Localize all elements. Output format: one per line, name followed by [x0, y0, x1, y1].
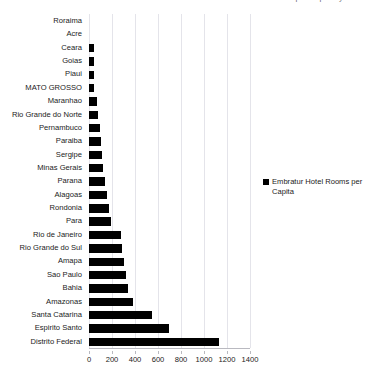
bar — [89, 57, 94, 65]
bar-row — [89, 27, 250, 40]
x-axis-tick-mark — [158, 351, 159, 354]
legend: Embratur Hotel Rooms per Capita — [263, 177, 375, 197]
bar — [89, 284, 128, 292]
bar-row — [89, 121, 250, 134]
bar-row — [89, 188, 250, 201]
bar — [89, 84, 94, 92]
bar-row — [89, 241, 250, 254]
legend-label: Embratur Hotel Rooms per Capita — [272, 177, 370, 197]
bar-row — [89, 308, 250, 321]
y-axis-label: Parana — [58, 174, 83, 187]
bar — [89, 164, 103, 172]
bar-row — [89, 228, 250, 241]
bar — [89, 111, 98, 119]
y-axis-label: Alagoas — [55, 188, 82, 201]
x-axis-tick-mark — [204, 351, 205, 354]
y-axis-label: Distrito Federal — [31, 335, 82, 348]
bar-row — [89, 108, 250, 121]
bar-row — [89, 295, 250, 308]
bar — [89, 177, 105, 185]
bar-row — [89, 214, 250, 227]
bar-row — [89, 41, 250, 54]
bar — [89, 311, 152, 319]
bar-row — [89, 281, 250, 294]
bar — [89, 271, 126, 279]
x-axis-tick-mark — [89, 351, 90, 354]
bar — [89, 204, 109, 212]
y-axis-label: Rio Grande do Sul — [20, 241, 82, 254]
x-axis-tick-mark — [135, 351, 136, 354]
y-axis-label: Amazonas — [46, 295, 82, 308]
plot-area — [89, 14, 250, 348]
bar-row — [89, 67, 250, 80]
bar — [89, 258, 124, 266]
y-axis-label: Sao Paulo — [47, 268, 82, 281]
y-axis-label: Pernambuco — [39, 121, 82, 134]
y-axis-label: Rio de Janeiro — [33, 228, 82, 241]
x-axis-tick-mark — [227, 351, 228, 354]
bar-row — [89, 81, 250, 94]
y-axis-label: Piaui — [65, 67, 82, 80]
bar-row — [89, 254, 250, 267]
y-axis-label: Goias — [62, 54, 82, 67]
y-axis-label: Bahia — [63, 281, 82, 294]
bar — [89, 97, 97, 105]
bar-row — [89, 321, 250, 334]
x-axis-tick-label: 1200 — [219, 355, 236, 364]
bar-row — [89, 161, 250, 174]
x-axis-tick-mark — [250, 351, 251, 354]
y-axis-label: Ceara — [61, 41, 82, 54]
bar-row — [89, 335, 250, 348]
y-axis-label: Maranhao — [48, 94, 82, 107]
bar-row — [89, 134, 250, 147]
y-axis-label: Paraiba — [56, 134, 82, 147]
bar-chart-figure: RoraimaAcreCearaGoiasPiauiMATO GROSSOMar… — [0, 0, 378, 375]
bar — [89, 298, 133, 306]
y-axis-label: MATO GROSSO — [25, 81, 82, 94]
bar-row — [89, 174, 250, 187]
y-axis-label: Santa Catarina — [31, 308, 82, 321]
y-axis-category-labels: RoraimaAcreCearaGoiasPiauiMATO GROSSOMar… — [0, 14, 85, 348]
bar — [89, 191, 107, 199]
x-axis-ticks: 0200400600800100012001400 — [0, 351, 378, 365]
bar — [89, 217, 111, 225]
x-axis-tick-mark — [181, 351, 182, 354]
bar-row — [89, 94, 250, 107]
x-axis-tick-label: 1400 — [242, 355, 259, 364]
gridline — [250, 14, 251, 348]
x-axis-tick-label: 200 — [106, 355, 119, 364]
bar — [89, 44, 94, 52]
x-axis-tick-label: 600 — [152, 355, 165, 364]
bar — [89, 71, 94, 79]
x-axis-tick-label: 1000 — [196, 355, 213, 364]
x-axis-tick-label: 400 — [129, 355, 142, 364]
x-axis-tick-mark — [112, 351, 113, 354]
bar — [89, 124, 100, 132]
bar-row — [89, 54, 250, 67]
bar-row — [89, 14, 250, 27]
y-axis-label: Rio Grande do Norte — [12, 108, 82, 121]
y-axis-label: Acre — [66, 27, 82, 40]
bar — [89, 338, 219, 346]
bar — [89, 324, 169, 332]
y-axis-label: Sergipe — [56, 148, 82, 161]
y-axis-label: Roraima — [53, 14, 82, 27]
bar-row — [89, 201, 250, 214]
x-axis-tick-label: 800 — [175, 355, 188, 364]
bar — [89, 244, 122, 252]
legend-swatch-icon — [263, 179, 269, 185]
bar-row — [89, 148, 250, 161]
bar-row — [89, 268, 250, 281]
bar — [89, 231, 121, 239]
x-axis-tick-label: 0 — [87, 355, 91, 364]
bar — [89, 137, 101, 145]
y-axis-label: Para — [66, 214, 82, 227]
x-axis-line — [89, 348, 250, 349]
y-axis-label: Amapa — [58, 254, 82, 267]
y-axis-label: Espirito Santo — [35, 321, 82, 334]
y-axis-label: Minas Gerais — [37, 161, 82, 174]
bar — [89, 151, 102, 159]
y-axis-label: Rondonia — [49, 201, 82, 214]
